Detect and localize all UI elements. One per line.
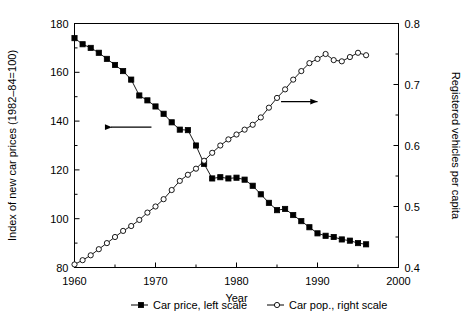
data-point-marker [177, 127, 182, 132]
data-point-marker [291, 212, 296, 217]
x-axis-tick-label: 1980 [224, 275, 248, 287]
data-point-marker [234, 132, 239, 137]
data-point-marker [218, 175, 223, 180]
y-axis-tick-label: 140 [50, 115, 68, 127]
data-point-marker [145, 210, 150, 215]
data-point-marker [234, 175, 239, 180]
data-point-marker [291, 77, 296, 82]
data-point-marker [161, 111, 166, 116]
car-price-vs-car-population-chart: 801001201401601800.40.50.60.70.819601970… [0, 0, 464, 321]
data-point-marker [193, 166, 198, 171]
data-point-marker [72, 36, 77, 41]
data-point-marker [169, 187, 174, 192]
data-point-marker [112, 234, 117, 239]
data-point-marker [137, 93, 142, 98]
data-point-marker [323, 233, 328, 238]
x-axis-tick-label: 1990 [305, 275, 329, 287]
data-point-marker [355, 241, 360, 246]
y-axis-title: Index of new car prices (1982–84=100) [6, 50, 18, 241]
data-point-marker [266, 200, 271, 205]
data-point-marker [339, 59, 344, 64]
y2-axis-title: Registered vehicles per capita [450, 72, 462, 220]
data-point-marker [315, 231, 320, 236]
x-axis-tick-label: 2000 [386, 275, 410, 287]
data-point-marker [307, 225, 312, 230]
data-point-marker [347, 238, 352, 243]
data-point-marker [323, 51, 328, 56]
data-point-marker [96, 50, 101, 55]
y2-axis-tick-label: 0.6 [405, 140, 420, 152]
legend-marker-open-circle [274, 302, 279, 307]
data-point-marker [96, 247, 101, 252]
data-point-marker [129, 223, 134, 228]
series-line [75, 38, 367, 244]
data-point-marker [250, 183, 255, 188]
data-point-marker [258, 192, 263, 197]
data-point-marker [153, 204, 158, 209]
data-point-marker [299, 219, 304, 224]
series-line [75, 53, 367, 265]
data-point-marker [88, 45, 93, 50]
data-point-marker [315, 56, 320, 61]
data-point-marker [299, 68, 304, 73]
y2-axis-tick-label: 0.7 [405, 79, 420, 91]
data-point-marker [210, 150, 215, 155]
data-point-marker [339, 237, 344, 242]
chart-figure: 801001201401601800.40.50.60.70.819601970… [0, 0, 464, 321]
chart-legend: Car price, left scaleCar pop., right sca… [131, 299, 387, 311]
data-point-marker [364, 242, 369, 247]
data-point-marker [258, 115, 263, 120]
y2-axis-tick-label: 0.4 [405, 262, 420, 274]
data-point-marker [218, 143, 223, 148]
data-point-marker [274, 95, 279, 100]
legend-label: Car price, left scale [153, 299, 247, 311]
data-point-marker [226, 137, 231, 142]
data-point-marker [242, 177, 247, 182]
data-point-marker [72, 262, 77, 267]
legend-marker-filled-square [138, 302, 143, 307]
data-point-marker [137, 217, 142, 222]
data-point-marker [347, 54, 352, 59]
data-point-marker [121, 228, 126, 233]
data-point-marker [161, 197, 166, 202]
y-axis-tick-label: 180 [50, 18, 68, 30]
data-point-marker [266, 105, 271, 110]
data-point-marker [153, 104, 158, 109]
data-point-marker [283, 87, 288, 92]
data-point-marker [210, 176, 215, 181]
data-point-marker [129, 77, 134, 82]
series-car-price [72, 36, 369, 247]
legend-label: Car pop., right scale [289, 299, 387, 311]
x-axis-tick-label: 1960 [62, 275, 86, 287]
data-point-marker [307, 61, 312, 66]
data-point-marker [169, 120, 174, 125]
data-point-marker [104, 56, 109, 61]
y-axis-tick-label: 160 [50, 66, 68, 78]
data-point-marker [80, 42, 85, 47]
data-point-marker [177, 178, 182, 183]
data-point-marker [331, 58, 336, 63]
data-point-marker [202, 158, 207, 163]
y-axis-tick-label: 120 [50, 164, 68, 176]
data-point-marker [250, 122, 255, 127]
data-point-marker [242, 127, 247, 132]
y-axis-tick-label: 80 [56, 262, 68, 274]
data-point-marker [283, 206, 288, 211]
data-point-marker [145, 98, 150, 103]
data-point-marker [112, 62, 117, 67]
data-point-marker [193, 143, 198, 148]
data-point-marker [104, 241, 109, 246]
x-axis-tick-label: 1970 [143, 275, 167, 287]
data-point-marker [185, 172, 190, 177]
data-point-marker [226, 176, 231, 181]
data-point-marker [331, 234, 336, 239]
y2-axis-tick-label: 0.5 [405, 201, 420, 213]
data-point-marker [185, 128, 190, 133]
data-point-marker [274, 208, 279, 213]
data-point-marker [121, 68, 126, 73]
data-point-marker [88, 253, 93, 258]
data-point-marker [364, 53, 369, 58]
y2-axis-tick-label: 0.8 [405, 18, 420, 30]
data-point-marker [80, 258, 85, 263]
y-axis-tick-label: 100 [50, 213, 68, 225]
